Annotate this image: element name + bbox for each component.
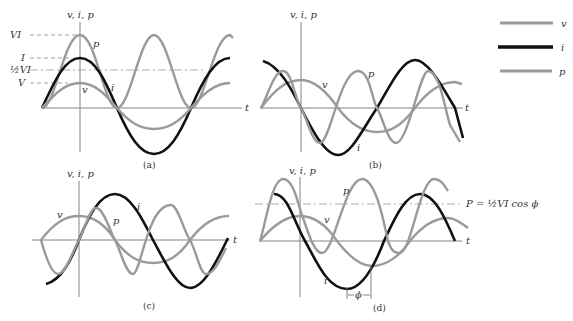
panel-d-caption: (d) xyxy=(373,303,386,313)
level-half-VI-label: ½VI xyxy=(10,64,32,75)
i-curve-label: i xyxy=(137,201,140,212)
p-curve xyxy=(42,35,233,108)
p-curve-label: p xyxy=(368,68,375,79)
v-curve-label: v xyxy=(82,84,88,95)
v-curve-label: v xyxy=(322,79,328,90)
phi-label: ϕ xyxy=(355,289,362,300)
panel-b-caption: (b) xyxy=(369,160,382,170)
i-curve xyxy=(274,194,455,289)
legend-item-p: p xyxy=(500,66,566,77)
level-I-label: I xyxy=(20,52,26,63)
legend: v i p xyxy=(498,18,567,77)
panel-c: v, i, p t v p i (c) xyxy=(32,168,238,311)
level-VI-label: VI xyxy=(10,29,22,40)
legend-label-v: v xyxy=(561,18,567,29)
panel-b: v, i, p t p i v (b) xyxy=(260,9,470,170)
y-axis-label: v, i, p xyxy=(289,165,316,176)
t-axis-label: t xyxy=(466,235,471,246)
t-axis-label: t xyxy=(245,102,250,113)
average-power-label: P = ½VI cos ϕ xyxy=(465,198,538,209)
legend-label-i: i xyxy=(561,42,564,53)
v-curve xyxy=(41,216,229,263)
t-axis-label: t xyxy=(233,234,238,245)
panel-d: v, i, p t P = ½VI cos ϕ p v i ϕ (d) xyxy=(255,165,538,313)
panel-c-caption: (c) xyxy=(143,301,155,311)
y-axis-label: v, i, p xyxy=(67,9,94,20)
p-curve xyxy=(41,205,226,274)
p-curve-label: p xyxy=(93,38,100,49)
y-axis-label: v, i, p xyxy=(67,168,94,179)
i-curve-label: i xyxy=(111,82,114,93)
y-axis-label: v, i, p xyxy=(290,9,317,20)
legend-item-i: i xyxy=(498,42,564,53)
v-curve-label: v xyxy=(324,214,330,225)
p-curve-label: p xyxy=(113,215,120,226)
v-curve-label: v xyxy=(57,209,63,220)
i-curve-label: i xyxy=(357,142,360,153)
legend-label-p: p xyxy=(559,66,566,77)
t-axis-label: t xyxy=(465,102,470,113)
panel-a: v, i, p t VI I ½VI V p i v (a) xyxy=(10,9,250,170)
level-V-label: V xyxy=(18,77,27,88)
panel-a-caption: (a) xyxy=(143,160,155,170)
legend-item-v: v xyxy=(500,18,567,29)
i-curve-label: i xyxy=(324,275,327,286)
p-curve-label: p xyxy=(343,185,350,196)
p-curve xyxy=(260,179,448,253)
ac-power-waveforms-figure: v, i, p t VI I ½VI V p i v (a) v, i, p t… xyxy=(0,0,573,321)
